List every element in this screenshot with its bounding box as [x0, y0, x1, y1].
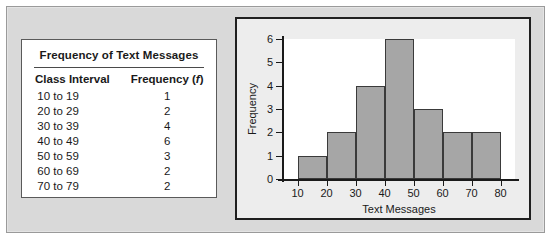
cell-class-interval: 40 to 49 — [22, 134, 124, 149]
cell-class-interval: 20 to 29 — [22, 104, 124, 119]
cell-class-interval: 50 to 59 — [22, 149, 124, 164]
x-axis-tick-label: 80 — [489, 188, 513, 199]
y-axis-tick-label: 1 — [259, 151, 273, 162]
title-divider — [34, 67, 204, 68]
column-header-frequency: Frequency (f) — [124, 71, 216, 89]
y-axis-line — [282, 36, 284, 182]
y-axis-tick-label: 3 — [259, 104, 273, 115]
x-axis-tick-label: 20 — [315, 188, 339, 199]
x-axis-tick-label: 30 — [344, 188, 368, 199]
histogram-bar — [327, 132, 356, 179]
cell-frequency: 1 — [124, 89, 216, 104]
cell-frequency: 6 — [124, 134, 216, 149]
x-axis-tick-label: 40 — [373, 188, 397, 199]
y-axis-title: Frequency — [246, 61, 258, 157]
x-axis-tick — [385, 181, 386, 186]
y-axis-tick — [276, 109, 282, 110]
x-axis-tick-label: 10 — [286, 188, 310, 199]
x-axis-tick — [414, 181, 415, 186]
x-axis-tick — [298, 181, 299, 186]
table-row: 20 to 292 — [22, 104, 216, 119]
table-row: 10 to 191 — [22, 89, 216, 104]
x-axis-tick — [356, 181, 357, 186]
cell-frequency: 2 — [124, 104, 216, 119]
column-header-class-interval: Class Interval — [22, 71, 124, 89]
y-axis-tick-label: 4 — [259, 81, 273, 92]
x-axis-tick — [443, 181, 444, 186]
frequency-table-panel: Frequency of Text Messages Class Interva… — [21, 39, 217, 198]
frequency-table-body: 10 to 19120 to 29230 to 39440 to 49650 t… — [22, 89, 216, 193]
x-axis-line — [278, 179, 519, 181]
x-axis-tick-label: 50 — [402, 188, 426, 199]
histogram-plot-wrapper: Frequency 0123456 1020304050607080 Text … — [237, 19, 529, 218]
x-axis-tick-label: 60 — [431, 188, 455, 199]
histogram-bar — [443, 132, 472, 179]
frequency-table: Class Interval Frequency (f) 10 to 19120… — [22, 71, 216, 193]
y-axis-tick-label: 2 — [259, 127, 273, 138]
cell-frequency: 2 — [124, 163, 216, 178]
cell-frequency: 2 — [124, 178, 216, 193]
x-axis-tick — [327, 181, 328, 186]
y-axis-tick-label: 5 — [259, 57, 273, 68]
table-row: 60 to 692 — [22, 163, 216, 178]
x-axis-tick-label: 70 — [460, 188, 484, 199]
y-axis-tick — [276, 39, 282, 40]
y-axis-tick — [276, 156, 282, 157]
table-row: 50 to 593 — [22, 149, 216, 164]
cell-class-interval: 70 to 79 — [22, 178, 124, 193]
y-axis-tick — [276, 179, 282, 180]
figure-frame: Frequency of Text Messages Class Interva… — [6, 6, 545, 233]
column-header-frequency-prefix: Frequency ( — [131, 73, 196, 85]
x-axis-tick — [472, 181, 473, 186]
histogram-plot-area — [283, 39, 515, 179]
histogram-bar — [414, 109, 443, 179]
table-row: 30 to 394 — [22, 119, 216, 134]
histogram-bar — [385, 39, 414, 179]
cell-frequency: 3 — [124, 149, 216, 164]
x-axis-title: Text Messages — [283, 203, 515, 215]
table-row: 70 to 792 — [22, 178, 216, 193]
cell-class-interval: 30 to 39 — [22, 119, 124, 134]
column-header-frequency-suffix: ) — [200, 73, 204, 85]
cell-class-interval: 10 to 19 — [22, 89, 124, 104]
cell-frequency: 4 — [124, 119, 216, 134]
y-axis-tick — [276, 132, 282, 133]
frequency-table-title: Frequency of Text Messages — [22, 40, 216, 61]
cell-class-interval: 60 to 69 — [22, 163, 124, 178]
y-axis-tick — [276, 86, 282, 87]
y-axis-tick-label: 6 — [259, 34, 273, 45]
histogram-bar — [472, 132, 501, 179]
histogram-bar — [356, 86, 385, 179]
x-axis-tick — [501, 181, 502, 186]
table-header-row: Class Interval Frequency (f) — [22, 71, 216, 89]
table-row: 40 to 496 — [22, 134, 216, 149]
y-axis-tick — [276, 62, 282, 63]
histogram-bar — [298, 156, 327, 179]
y-axis-tick-label: 0 — [259, 174, 273, 185]
histogram-panel: Frequency 0123456 1020304050607080 Text … — [235, 17, 531, 220]
